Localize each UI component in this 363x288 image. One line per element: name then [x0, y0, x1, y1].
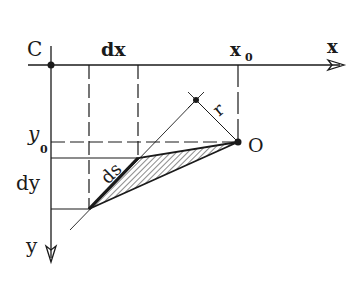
- point-o: [235, 139, 242, 146]
- x-axis: [28, 60, 344, 70]
- origin-point: [48, 62, 55, 69]
- dx-label: dx: [101, 38, 126, 60]
- geometry-diagram: C dx x 0 x y 0 dy y ds r O: [0, 0, 363, 288]
- foot-point: [188, 92, 204, 108]
- r-label: r: [208, 98, 228, 120]
- origin-label: C: [27, 37, 42, 61]
- x0-label: x: [230, 39, 241, 60]
- y0-subscript: 0: [40, 143, 48, 156]
- dy-label: dy: [16, 171, 41, 195]
- y-axis-label: y: [25, 234, 38, 258]
- y0-label: y: [27, 122, 40, 146]
- point-o-label: O: [248, 134, 264, 156]
- x0-subscript: 0: [245, 51, 253, 64]
- x-axis-label: x: [327, 36, 338, 57]
